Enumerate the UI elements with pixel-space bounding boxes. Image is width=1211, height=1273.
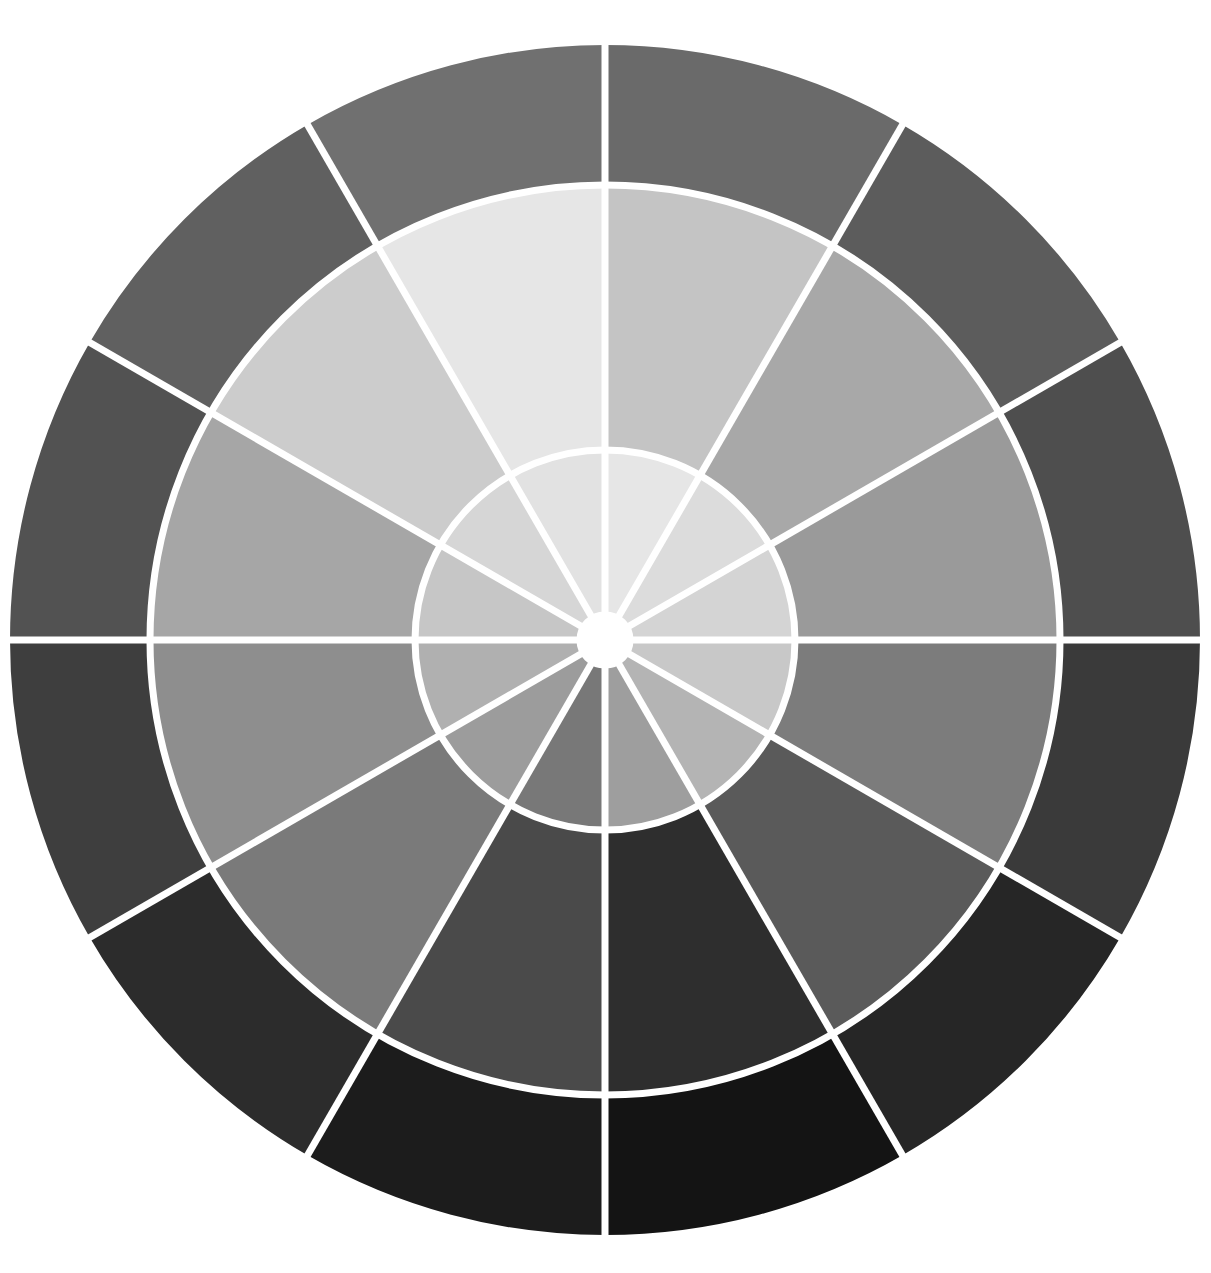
value-wheel [0,0,1211,1273]
center-dot [580,615,630,665]
